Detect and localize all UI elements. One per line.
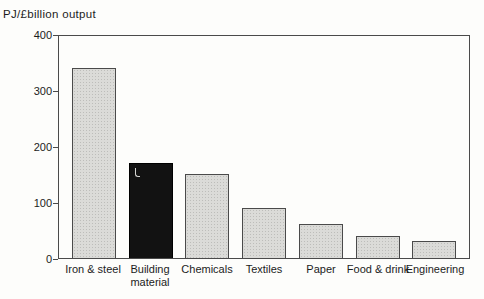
x-tick-label-textiles: Textiles bbox=[246, 263, 283, 276]
bar-chemicals bbox=[185, 174, 229, 258]
y-tick-mark-0 bbox=[53, 259, 58, 260]
y-tick-mark-100 bbox=[53, 203, 58, 204]
x-tick-label-paper: Paper bbox=[306, 263, 335, 276]
bar-food-drink bbox=[356, 236, 400, 258]
y-tick-label-200: 200 bbox=[12, 141, 52, 153]
bar-engineering bbox=[412, 241, 456, 258]
y-tick-label-300: 300 bbox=[12, 85, 52, 97]
x-tick-label-food-drink: Food & drink bbox=[347, 263, 409, 276]
y-tick-label-100: 100 bbox=[12, 197, 52, 209]
bars-container bbox=[59, 36, 469, 258]
x-tick-label-building-material: Building material bbox=[119, 263, 181, 289]
y-axis-title: PJ/£billion output bbox=[3, 8, 96, 20]
print-artifact-mark bbox=[135, 168, 140, 177]
bar-building-material bbox=[129, 163, 173, 258]
bar-paper bbox=[299, 224, 343, 258]
y-tick-mark-400 bbox=[53, 35, 58, 36]
bar-textiles bbox=[242, 208, 286, 258]
x-tick-label-chemicals: Chemicals bbox=[181, 263, 232, 276]
y-tick-label-0: 0 bbox=[12, 253, 52, 265]
bar-chart-figure: PJ/£billion output 0100200300400 Iron & … bbox=[0, 0, 484, 299]
plot-area bbox=[58, 35, 470, 259]
x-tick-label-engineering: Engineering bbox=[406, 263, 465, 276]
bar-iron-steel bbox=[72, 68, 116, 258]
y-tick-mark-200 bbox=[53, 147, 58, 148]
y-tick-mark-300 bbox=[53, 91, 58, 92]
x-tick-label-iron-steel: Iron & steel bbox=[65, 263, 121, 276]
y-tick-label-400: 400 bbox=[12, 29, 52, 41]
